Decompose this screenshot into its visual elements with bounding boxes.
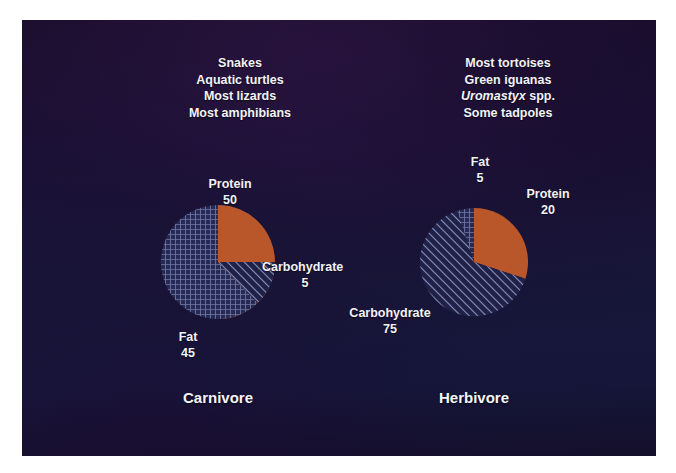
carnivore-protein-label-name: Protein [180,177,280,193]
herbivore-species-3-suffix: spp. [526,89,555,103]
carnivore-fat-label: Fat 45 [148,330,228,361]
carnivore-caption: Carnivore [158,389,278,406]
carnivore-carbohydrate-label-value: 5 [262,276,348,292]
herbivore-species-4: Some tadpoles [408,105,608,122]
herbivore-fat-label: Fat 5 [445,155,515,186]
herbivore-species-2: Green iguanas [408,72,608,89]
herbivore-protein-label: Protein 20 [508,187,588,218]
slide-panel: Snakes Aquatic turtles Most lizards Most… [22,20,656,456]
herbivore-protein-label-name: Protein [508,187,588,203]
herbivore-fat-label-value: 5 [445,171,515,187]
carnivore-carbohydrate-label-name: Carbohydrate [262,260,382,276]
herbivore-protein-label-value: 20 [508,203,588,219]
herbivore-species-3-genus: Uromastyx [461,89,526,103]
herbivore-species-list: Most tortoises Green iguanas Uromastyx s… [408,55,608,121]
carnivore-species-list: Snakes Aquatic turtles Most lizards Most… [140,55,340,121]
carnivore-species-4: Most amphibians [140,105,340,122]
carnivore-species-1: Snakes [140,55,340,72]
carnivore-protein-label-value: 50 [180,193,280,209]
herbivore-caption: Herbivore [414,389,534,406]
herbivore-carbohydrate-label-value: 75 [340,322,440,338]
herbivore-species-1: Most tortoises [408,55,608,72]
herbivore-carbohydrate-label: Carbohydrate 75 [340,306,440,337]
carnivore-fat-label-value: 45 [148,346,228,362]
herbivore-fat-label-name: Fat [445,155,515,171]
carnivore-protein-label: Protein 50 [180,177,280,208]
herbivore-carbohydrate-label-name: Carbohydrate [340,306,440,322]
carnivore-species-2: Aquatic turtles [140,72,340,89]
carnivore-carbohydrate-label: Carbohydrate 5 [262,260,382,291]
herbivore-pie-chart [414,202,534,322]
figure-root: Snakes Aquatic turtles Most lizards Most… [0,0,676,473]
herbivore-species-3: Uromastyx spp. [408,88,608,105]
carnivore-fat-label-name: Fat [148,330,228,346]
carnivore-species-3: Most lizards [140,88,340,105]
